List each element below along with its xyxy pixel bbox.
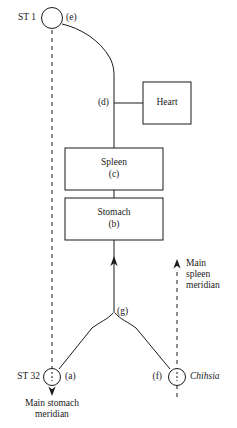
heart-connector-branch-label: (d) [76,97,109,108]
stomach-meridian-arrowhead-icon [48,387,55,397]
st1-to-trunk-curve [62,24,114,78]
heart-box-label: Heart [143,97,191,109]
stomach-box-label: Stomach [65,207,163,219]
chihsia-point-label: Chihsia [190,371,220,382]
junction-to-chihsia-branch [115,313,170,369]
st1-point-circle [42,8,63,29]
junction-g-branch-label: (g) [117,306,128,317]
stomach-box-sub-label: (b) [65,219,163,231]
junction-to-st32-branch [59,313,113,369]
st1-point-label: ST 1 [4,12,36,23]
st1-branch-label: (e) [66,12,77,23]
st32-point-label: ST 32 [4,371,40,382]
main-stomach-meridian-label: Main stomach meridian [2,398,102,420]
chihsia-branch-label: (f) [140,371,162,382]
spleen-meridian-arrowhead-icon [173,259,180,269]
main-spleen-meridian-label: Main spleen meridian [186,258,236,291]
spleen-box-label: Spleen [65,157,163,169]
st32-branch-label: (a) [65,371,76,382]
spleen-box-sub-label: (c) [65,169,163,181]
meridian-diagram: ST 1 (e) (d) Heart Spleen (c) Stomach (b… [0,0,237,428]
